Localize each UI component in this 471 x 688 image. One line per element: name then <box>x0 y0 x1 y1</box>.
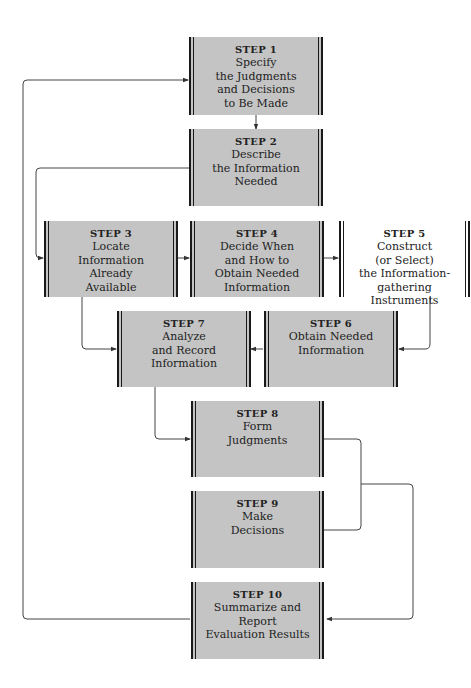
step-7-box: STEP 7 Analyze and Record Information <box>117 311 251 387</box>
line-step8-out <box>324 439 361 530</box>
arrow-step3-to-step7 <box>82 296 116 349</box>
step-9-text: Make Decisions <box>193 510 322 537</box>
step-7-text: Analyze and Record Information <box>119 330 249 371</box>
step-2-text: Describe the Information Needed <box>191 148 321 189</box>
step-10-box: STEP 10 Summarize and Report Evaluation … <box>191 582 324 659</box>
step-7-label: STEP 7 <box>119 317 249 330</box>
step-6-box: STEP 6 Obtain Needed Information <box>264 311 398 387</box>
step-5-label: STEP 5 <box>341 227 468 240</box>
step-5-box: STEP 5 Construct (or Select) the Informa… <box>339 221 470 297</box>
step-1-label: STEP 1 <box>191 43 321 56</box>
step-4-label: STEP 4 <box>192 227 322 240</box>
step-9-box: STEP 9 Make Decisions <box>191 491 324 568</box>
arrow-step7-to-step8 <box>155 386 190 439</box>
arrow-step8-9-to-step10 <box>327 484 413 619</box>
step-4-box: STEP 4 Decide When and How to Obtain Nee… <box>190 221 324 297</box>
step-8-box: STEP 8 Form Judgments <box>191 401 324 477</box>
step-1-box: STEP 1 Specify the Judgments and Decisio… <box>189 37 323 115</box>
step-9-label: STEP 9 <box>193 497 322 510</box>
step-10-text: Summarize and Report Evaluation Results <box>193 601 322 642</box>
step-2-box: STEP 2 Describe the Information Needed <box>189 129 323 206</box>
step-3-label: STEP 3 <box>46 227 176 240</box>
step-10-label: STEP 10 <box>193 588 322 601</box>
step-8-label: STEP 8 <box>193 407 322 420</box>
step-6-label: STEP 6 <box>266 317 396 330</box>
step-1-text: Specify the Judgments and Decisions to B… <box>191 56 321 110</box>
step-8-text: Form Judgments <box>193 420 322 447</box>
step-3-text: Locate Information Already Available <box>46 240 176 294</box>
step-2-label: STEP 2 <box>191 135 321 148</box>
step-5-text: Construct (or Select) the Information- g… <box>341 240 468 308</box>
step-3-box: STEP 3 Locate Information Already Availa… <box>44 221 178 297</box>
step-4-text: Decide When and How to Obtain Needed Inf… <box>192 240 322 294</box>
step-6-text: Obtain Needed Information <box>266 330 396 357</box>
evaluation-process-flowchart: STEP 1 Specify the Judgments and Decisio… <box>0 0 471 688</box>
